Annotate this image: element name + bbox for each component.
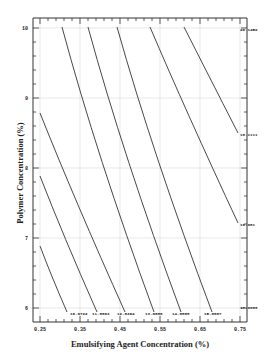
contour-label: 13.8888 [145,312,163,316]
x-tick-label: 0.55 [154,327,166,333]
axes [33,18,247,322]
contour-label: 14.8888 [172,312,190,316]
y-tick-label: 8 [25,166,28,172]
contour-plot: 10.972211.886312.830413.888814.888815.88… [0,0,274,360]
contour-line [184,27,238,133]
x-tick-label: 0.25 [34,327,46,333]
y-tick-label: 6 [25,306,28,312]
y-axis-label: Polymer Concentration (%) [15,93,25,253]
contour-label: 16.981 [240,223,256,227]
contour-label: 11.8863 [92,312,110,316]
contour-line [40,176,97,312]
contour-line [62,27,154,312]
contour-line [40,246,67,312]
contour-label: 17.9888 [240,306,258,310]
contour-label: 10.9722 [70,312,88,316]
contour-line [88,27,181,312]
contour-line [150,27,238,223]
x-tick-label: 0.65 [194,327,206,333]
contour-label: 20.1452 [240,28,258,32]
contour-lines: 10.972211.886312.830413.888814.888815.88… [40,27,258,316]
contour-label: 15.8887 [204,312,222,316]
y-tick-label: 9 [25,96,28,102]
grid-lines [33,18,247,322]
y-tick-label: 10 [22,26,28,32]
x-tick-label: 0.45 [114,327,126,333]
contour-label: 12.8304 [117,312,135,316]
x-tick-label: 0.75 [234,327,246,333]
contour-line [40,113,125,312]
x-axis-label: Emulsifying Agent Concentration (%) [40,339,240,349]
y-tick-label: 7 [25,236,28,242]
x-tick-label: 0.35 [74,327,86,333]
contour-label: 18.1111 [240,133,258,137]
